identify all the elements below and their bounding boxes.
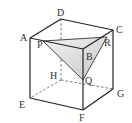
edge-DC <box>61 19 113 30</box>
label-Q: Q <box>85 75 93 86</box>
label-B: B <box>86 51 93 62</box>
label-G: G <box>117 88 124 99</box>
label-H: H <box>50 70 57 81</box>
edge-HE <box>30 80 61 98</box>
edge-FG <box>83 89 113 110</box>
edge-AD <box>30 19 61 38</box>
label-C: C <box>116 24 123 35</box>
label-P: P <box>37 39 43 50</box>
label-E: E <box>19 99 25 110</box>
label-F: F <box>79 112 85 123</box>
label-D: D <box>57 7 64 18</box>
cube-diagram: A D C B H E F G P R Q <box>0 0 132 123</box>
label-A: A <box>20 32 28 43</box>
edge-EF <box>30 98 83 110</box>
label-R: R <box>104 37 111 48</box>
